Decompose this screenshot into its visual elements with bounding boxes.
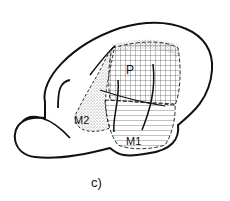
- brain-diagram: P M1 M2 c): [0, 0, 230, 201]
- label-m2: M2: [74, 114, 89, 126]
- panel-label: c): [91, 175, 102, 190]
- label-p: P: [126, 63, 134, 77]
- label-m1: M1: [126, 135, 141, 147]
